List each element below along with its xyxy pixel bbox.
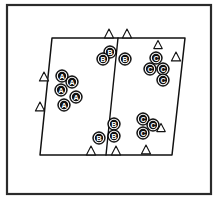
marker-label: C <box>140 129 145 138</box>
marker-label: C <box>160 76 165 85</box>
labeled-marker: C <box>147 119 159 131</box>
marker-label: C <box>153 54 158 63</box>
labeled-marker: A <box>66 76 78 88</box>
triangle-marker <box>171 52 180 61</box>
marker-label: B <box>122 55 127 64</box>
labeled-marker: A <box>58 99 70 111</box>
labeled-marker: B <box>108 130 120 142</box>
labeled-marker: A <box>55 84 67 96</box>
triangle-marker <box>39 72 48 81</box>
triangle-marker <box>86 146 95 155</box>
marker-label: A <box>69 78 74 87</box>
triangle-marker <box>104 29 113 38</box>
labeled-marker: C <box>157 63 169 75</box>
triangle-marker <box>141 145 150 154</box>
marker-label: A <box>61 101 66 110</box>
diagram-canvas: AAAAABBBBBBCCCCCCC <box>0 0 218 199</box>
labeled-marker: C <box>137 127 149 139</box>
marker-label: C <box>160 65 165 74</box>
labeled-marker: C <box>150 52 162 64</box>
labeled-marker: B <box>108 118 120 130</box>
marker-label: B <box>96 134 101 143</box>
labeled-marker: B <box>97 53 109 65</box>
marker-label: C <box>150 121 155 130</box>
marker-label: C <box>140 115 145 124</box>
triangle-marker <box>122 29 131 38</box>
triangle-marker <box>154 40 162 48</box>
marker-label: B <box>100 55 105 64</box>
triangle-marker <box>111 146 120 155</box>
marker-label: B <box>111 120 116 129</box>
marker-label: A <box>59 72 64 81</box>
labeled-marker: B <box>119 53 131 65</box>
marker-label: A <box>73 93 78 102</box>
triangle-marker <box>35 102 44 111</box>
marker-label: B <box>111 132 116 141</box>
marker-label: A <box>58 86 63 95</box>
labeled-marker: A <box>70 91 82 103</box>
labeled-marker: C <box>144 63 156 75</box>
labeled-marker: C <box>157 74 169 86</box>
marker-label: C <box>147 65 152 74</box>
labeled-marker: B <box>93 132 105 144</box>
diagram-svg: AAAAABBBBBBCCCCCCC <box>0 0 218 199</box>
